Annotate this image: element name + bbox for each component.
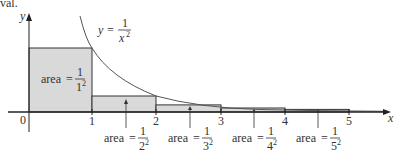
- svg-text:x: x: [118, 31, 125, 45]
- svg-text:area: area: [232, 131, 253, 145]
- svg-text:1: 1: [77, 65, 83, 79]
- svg-text:=: =: [66, 72, 73, 86]
- origin-label: 0: [20, 113, 26, 127]
- area-label-5: area = 1 5 2: [296, 124, 341, 153]
- svg-text:=: =: [321, 131, 328, 145]
- curve-label: y = 1 x 2: [97, 16, 131, 45]
- svg-text:y: y: [97, 23, 104, 37]
- svg-text:1: 1: [122, 16, 128, 30]
- svg-text:area: area: [296, 131, 317, 145]
- svg-text:2: 2: [337, 138, 341, 147]
- svg-text:=: =: [107, 23, 114, 37]
- svg-text:1: 1: [140, 124, 146, 138]
- figure: val. y x 0 1 2 3 4 5 y = 1 x 2 area =: [0, 0, 397, 164]
- svg-text:2: 2: [145, 138, 149, 147]
- svg-text:2: 2: [82, 79, 86, 88]
- tick-label-5: 5: [346, 114, 352, 128]
- x-axis-label: x: [387, 111, 394, 125]
- y-axis-arrow-icon: [26, 13, 32, 21]
- svg-text:1: 1: [332, 124, 338, 138]
- svg-text:=: =: [129, 131, 136, 145]
- area-label-4: area = 1 4 2: [232, 124, 277, 153]
- svg-text:2: 2: [209, 138, 213, 147]
- svg-text:area: area: [41, 72, 62, 86]
- svg-text:2: 2: [273, 138, 277, 147]
- svg-text:=: =: [257, 131, 264, 145]
- y-axis-label: y: [19, 9, 26, 23]
- svg-text:1: 1: [268, 124, 274, 138]
- svg-text:=: =: [193, 131, 200, 145]
- svg-text:area: area: [104, 131, 125, 145]
- svg-text:2: 2: [126, 30, 130, 39]
- tick-label-4: 4: [282, 114, 288, 128]
- area-label-3: area = 1 3 2: [168, 124, 213, 153]
- tick-label-3: 3: [218, 114, 224, 128]
- tick-label-2: 2: [153, 114, 159, 128]
- header-fragment: val.: [0, 0, 18, 10]
- tick-label-1: 1: [89, 114, 95, 128]
- area-label-2: area = 1 2 2: [104, 124, 149, 153]
- svg-text:1: 1: [204, 124, 210, 138]
- svg-text:area: area: [168, 131, 189, 145]
- riemann-sum-diagram: val. y x 0 1 2 3 4 5 y = 1 x 2 area =: [0, 0, 397, 164]
